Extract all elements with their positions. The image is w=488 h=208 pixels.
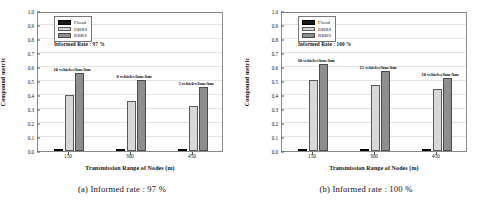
density-annotation-150: 10 vehicles/lane/km (53, 67, 90, 72)
x-axis-tick-mark (374, 152, 375, 155)
y-axis-tick-label: 0.5 (256, 79, 281, 85)
bar-rbrs-300 (381, 71, 390, 151)
y-axis-tick-label: 0.3 (12, 107, 37, 113)
y-axis-tick-mark (37, 124, 40, 125)
y-axis-tick-label: 0.9 (12, 23, 37, 29)
bar-dbrs-450 (433, 89, 442, 151)
legend-label: Flood (74, 20, 86, 25)
gridline (38, 52, 222, 53)
y-axis-tick-label: 0.4 (256, 93, 281, 99)
informed-rate-note: Informed Rate : 97 % (54, 41, 105, 47)
y-axis-tick-label: 0.9 (256, 23, 281, 29)
legend-item-dbrs: DBRS (302, 26, 331, 32)
bar-rbrs-150 (75, 73, 84, 151)
x-axis-title: Transmission Range of Nodes (m) (329, 165, 418, 171)
y-axis-tick-mark (37, 138, 40, 139)
y-axis-tick-label: 0.8 (12, 37, 37, 43)
y-axis-tick-mark (281, 82, 284, 83)
y-axis-tick-mark (281, 54, 284, 55)
x-axis-tick-mark (192, 152, 193, 155)
x-axis-tick-mark (312, 152, 313, 155)
bar-dbrs-150 (309, 80, 318, 151)
bar-dbrs-150 (65, 95, 74, 151)
y-axis-tick-mark (37, 40, 40, 41)
density-annotation-300: 15 vehicles/lane/km (359, 65, 396, 70)
y-axis-tick-label: 0.4 (12, 93, 37, 99)
y-axis-tick-mark (37, 82, 40, 83)
y-axis-tick-label: 1.0 (12, 9, 37, 15)
informed-rate-note: Informed Rate : 100 % (298, 41, 351, 47)
y-axis-tick-mark (281, 26, 284, 27)
bar-dbrs-300 (371, 85, 380, 151)
bar-rbrs-450 (199, 87, 208, 151)
chart-panel-a: 0.00.10.20.30.40.50.60.70.80.91.0Compoun… (0, 0, 244, 208)
x-axis-tick-mark (130, 152, 131, 155)
density-annotation-300: 8 vehicles/lane/km (117, 74, 152, 79)
y-axis-tick-mark (281, 40, 284, 41)
density-annotation-450: 5 vehicles/lane/km (179, 81, 214, 86)
panel-caption: (a) Informed rate : 97 % (0, 184, 244, 194)
bar-dbrs-300 (127, 101, 136, 151)
y-axis-title: Compound metric (0, 58, 6, 106)
gridline (282, 52, 466, 53)
legend-label: DBRS (318, 27, 331, 32)
y-axis-tick-label: 0.7 (256, 51, 281, 57)
y-axis-tick-label: 0.2 (12, 121, 37, 127)
y-axis-tick-label: 0.7 (12, 51, 37, 57)
y-axis-title: Compound metric (244, 58, 250, 106)
y-axis-tick-label: 0.6 (256, 65, 281, 71)
y-axis-tick-label: 0.1 (12, 135, 37, 141)
bar-rbrs-300 (137, 80, 146, 151)
density-annotation-450: 10 vehicles/lane/km (421, 72, 458, 77)
legend-swatch-icon-rbrs (58, 33, 71, 38)
legend-swatch-icon-dbrs (58, 27, 71, 32)
x-axis-title: Transmission Range of Nodes (m) (85, 165, 174, 171)
y-axis-tick-mark (281, 12, 284, 13)
legend-item-flood: Flood (58, 20, 87, 26)
y-axis-tick-mark (281, 68, 284, 69)
bar-flood-150 (54, 149, 63, 151)
y-axis-tick-mark (281, 124, 284, 125)
y-axis-tick-label: 0.0 (12, 149, 37, 155)
bar-rbrs-450 (443, 78, 452, 151)
plot-wrapper: 0.00.10.20.30.40.50.60.70.80.91.0Compoun… (281, 12, 467, 160)
y-axis-tick-mark (37, 26, 40, 27)
y-axis-tick-label: 0.2 (256, 121, 281, 127)
y-axis-tick-mark (37, 54, 40, 55)
legend-label: RBRS (318, 33, 331, 38)
legend-item-rbrs: RBRS (302, 33, 331, 39)
y-axis-tick-label: 0.8 (256, 37, 281, 43)
legend-label: DBRS (74, 27, 87, 32)
y-axis-tick-label: 0.0 (256, 149, 281, 155)
y-axis-tick-mark (281, 152, 284, 153)
bar-flood-450 (422, 149, 431, 151)
y-axis-tick-label: 0.5 (12, 79, 37, 85)
chart-legend: FloodDBRSRBRS (298, 16, 336, 42)
bar-flood-150 (298, 149, 307, 151)
density-annotation-150: 30 vehicles/lane/km (297, 58, 334, 63)
legend-swatch-icon-flood (302, 20, 315, 25)
y-axis-tick-mark (37, 96, 40, 97)
y-axis-tick-label: 0.3 (256, 107, 281, 113)
panel-caption: (b) Informed rate : 100 % (244, 184, 488, 194)
legend-swatch-icon-rbrs (302, 33, 315, 38)
bar-rbrs-150 (319, 64, 328, 151)
chart-panel-b: 0.00.10.20.30.40.50.60.70.80.91.0Compoun… (244, 0, 488, 208)
y-axis-tick-mark (37, 68, 40, 69)
bar-flood-300 (116, 149, 125, 151)
legend-label: RBRS (74, 33, 87, 38)
y-axis-tick-label: 0.1 (256, 135, 281, 141)
legend-item-flood: Flood (302, 20, 331, 26)
y-axis-tick-mark (37, 152, 40, 153)
bar-dbrs-450 (189, 106, 198, 152)
y-axis-tick-mark (281, 96, 284, 97)
y-axis-tick-mark (281, 110, 284, 111)
legend-label: Flood (318, 20, 330, 25)
x-axis-tick-mark (68, 152, 69, 155)
legend-item-dbrs: DBRS (58, 26, 87, 32)
chart-legend: FloodDBRSRBRS (54, 16, 92, 42)
legend-item-rbrs: RBRS (58, 33, 87, 39)
y-axis-tick-label: 1.0 (256, 9, 281, 15)
legend-swatch-icon-dbrs (302, 27, 315, 32)
y-axis-tick-label: 0.6 (12, 65, 37, 71)
